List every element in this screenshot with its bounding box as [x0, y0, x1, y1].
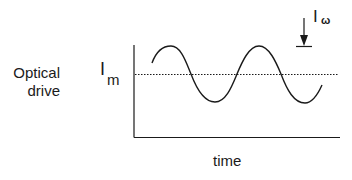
waveform-plot [0, 0, 352, 180]
amplitude-arrow-icon [296, 18, 312, 47]
